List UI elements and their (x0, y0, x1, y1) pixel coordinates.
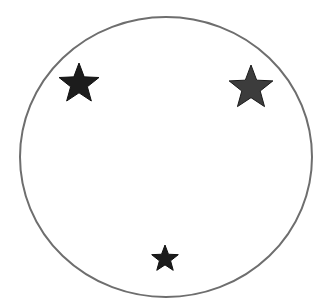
star-top-right-icon (229, 65, 273, 107)
star-top-left-icon (59, 63, 99, 101)
stars-group (59, 63, 273, 270)
star-bottom-icon (152, 245, 179, 270)
diagram-canvas (0, 0, 327, 308)
